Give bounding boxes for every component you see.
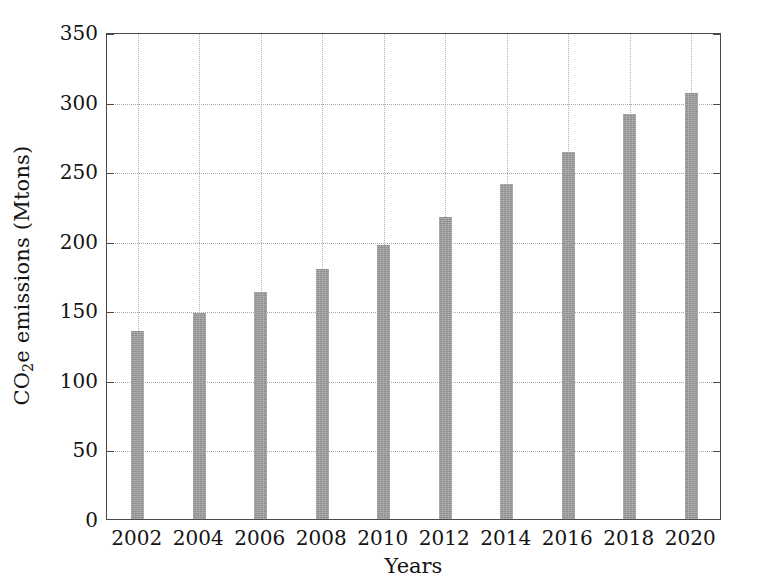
y-axis-tick-mark	[107, 104, 114, 105]
y-axis-tick-mark	[107, 173, 114, 174]
x-axis-tick-label: 2020	[650, 528, 730, 548]
bar-2004	[193, 313, 206, 519]
plot-area	[106, 33, 721, 520]
y-axis-tick-mark-right	[713, 34, 720, 35]
y-axis-tick-label: 150	[42, 301, 98, 321]
y-axis-tick-label: 50	[42, 440, 98, 460]
bar-2020	[685, 93, 698, 519]
y-axis-tick-mark-right	[713, 451, 720, 452]
y-axis-label-container: CO2e emissions (Mtons)	[0, 0, 46, 552]
y-axis-tick-mark-right	[713, 173, 720, 174]
y-axis-label-post: e emissions (Mtons)	[10, 146, 34, 363]
y-axis-tick-mark-right	[713, 382, 720, 383]
bar-2014	[500, 184, 513, 519]
y-axis-label: CO2e emissions (Mtons)	[10, 146, 35, 406]
bar-2012	[439, 217, 452, 519]
y-axis-tick-label: 200	[42, 232, 98, 252]
y-axis-tick-labels: 050100150200250300350	[34, 33, 98, 520]
y-axis-tick-mark-right	[713, 104, 720, 105]
y-axis-tick-mark	[107, 34, 114, 35]
x-axis-tick-labels: 2002200420062008201020122014201620182020	[106, 528, 721, 554]
y-axis-tick-mark-right	[713, 243, 720, 244]
chart-figure: CO2e emissions (Mtons) 05010015020025030…	[0, 0, 762, 585]
y-axis-tick-mark	[107, 382, 114, 383]
y-axis-tick-mark	[107, 312, 114, 313]
plot-inner	[107, 34, 720, 519]
y-axis-tick-label: 300	[42, 93, 98, 113]
y-axis-label-pre: CO	[10, 372, 34, 406]
y-axis-tick-mark	[107, 451, 114, 452]
bar-2006	[254, 292, 267, 519]
y-axis-tick-mark	[107, 243, 114, 244]
bar-2002	[131, 331, 144, 519]
y-axis-tick-label: 350	[42, 23, 98, 43]
bar-2016	[562, 152, 575, 519]
x-axis-label: Years	[106, 554, 721, 578]
y-axis-label-subscript: 2	[20, 363, 36, 372]
y-axis-tick-mark-right	[713, 312, 720, 313]
bar-2010	[377, 245, 390, 519]
bar-2018	[623, 114, 636, 519]
y-axis-tick-label: 0	[42, 510, 98, 530]
bar-2008	[316, 269, 329, 519]
y-axis-tick-label: 250	[42, 162, 98, 182]
y-axis-tick-label: 100	[42, 371, 98, 391]
